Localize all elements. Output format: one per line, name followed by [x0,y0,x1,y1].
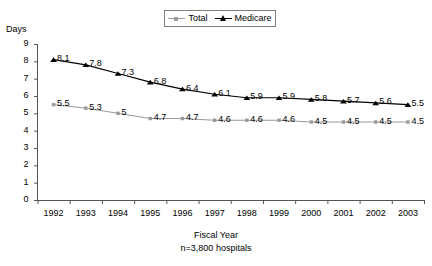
x-tick-label: 1995 [133,209,167,218]
x-tick-label: 1998 [230,209,264,218]
data-point-label: 7.8 [89,59,102,68]
data-point-label: 5.8 [315,94,328,103]
y-tick-label: 2 [15,160,29,169]
y-tick-label: 6 [15,91,29,100]
x-tick-label: 1999 [262,209,296,218]
data-series-layer [50,57,411,123]
data-point-label: 4.7 [186,113,199,122]
data-point-label: 4.6 [218,115,231,124]
data-point-label: 5.9 [283,92,296,101]
data-point-label: 6.8 [154,77,167,86]
y-tick-label: 4 [15,126,29,135]
data-point-label: 4.5 [411,117,424,126]
data-point-label: 4.7 [154,113,167,122]
y-tick-label: 0 [15,195,29,204]
data-point-label: 4.5 [315,117,328,126]
data-point-label: 4.5 [379,117,392,126]
data-point-label: 7.3 [122,68,135,77]
data-point-label: 5.7 [347,96,360,105]
x-tick-label: 2000 [294,209,328,218]
data-point-marker[interactable] [374,120,377,123]
data-point-label: 4.6 [250,115,263,124]
chart-footer: Fiscal Year n=3,800 hospitals [0,229,432,255]
x-tick-label: 1996 [165,209,199,218]
x-tick-label: 2003 [391,209,425,218]
data-point-label: 5.5 [411,99,424,108]
data-point-marker[interactable] [245,119,248,122]
data-point-marker[interactable] [213,119,216,122]
data-point-marker[interactable] [115,71,122,76]
y-tick-label: 1 [15,178,29,187]
data-point-label: 6.4 [186,84,199,93]
data-point-marker[interactable] [406,120,409,123]
data-point-marker[interactable] [342,120,345,123]
x-tick-label: 2002 [359,209,393,218]
data-point-marker[interactable] [277,119,280,122]
x-axis-title: Fiscal Year [0,229,432,242]
y-tick-label: 8 [15,56,29,65]
data-point-marker[interactable] [181,117,184,120]
data-point-marker[interactable] [310,120,313,123]
data-point-label: 5.9 [250,92,263,101]
data-point-marker[interactable] [84,106,87,109]
x-tick-label: 1992 [37,209,71,218]
data-point-label: 5.3 [89,103,102,112]
data-point-label: 4.5 [347,117,360,126]
y-tick-label: 7 [15,74,29,83]
data-point-marker[interactable] [149,117,152,120]
x-tick-label: 1993 [69,209,103,218]
data-point-label: 5.5 [57,99,70,108]
data-point-marker[interactable] [52,103,55,106]
x-tick-label: 1997 [198,209,232,218]
x-tick-label: 1994 [101,209,135,218]
x-tick-label: 2001 [326,209,360,218]
chart-container: Days Total Medicare 9876543210 199219931… [0,0,432,266]
plot-area [0,0,432,266]
y-tick-label: 5 [15,108,29,117]
data-point-label: 6.1 [218,89,231,98]
data-point-marker[interactable] [116,112,119,115]
y-axis-ticks [34,45,38,201]
data-point-label: 8.1 [57,54,70,63]
data-point-label: 5.6 [379,97,392,106]
sample-size-note: n=3,800 hospitals [0,242,432,255]
y-tick-label: 9 [15,39,29,48]
data-point-label: 5 [122,108,127,117]
data-point-label: 4.6 [283,115,296,124]
y-tick-label: 3 [15,143,29,152]
